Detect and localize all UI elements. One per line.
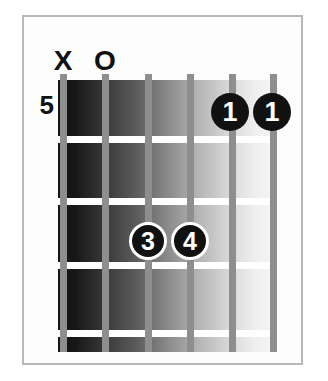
finger-dot-string3-fret3: 3 xyxy=(129,222,167,260)
finger-dot-string6-fret1: 1 xyxy=(253,93,291,131)
string-4 xyxy=(187,74,194,352)
finger-dot-string4-fret3: 4 xyxy=(171,222,209,260)
fret-line-2 xyxy=(58,198,277,205)
fret-line-1 xyxy=(58,136,277,143)
chord-diagram: 5 X O 1 1 3 4 xyxy=(0,0,328,381)
string-1 xyxy=(60,74,67,352)
start-fret-number: 5 xyxy=(28,92,54,118)
string-2 xyxy=(102,74,109,352)
string-marker-open: O xyxy=(90,46,120,76)
fret-line-3 xyxy=(58,262,277,269)
string-marker-muted: X xyxy=(48,46,78,76)
string-3 xyxy=(145,74,152,352)
finger-dot-string5-fret1: 1 xyxy=(211,93,249,131)
fret-line-4 xyxy=(58,330,277,337)
